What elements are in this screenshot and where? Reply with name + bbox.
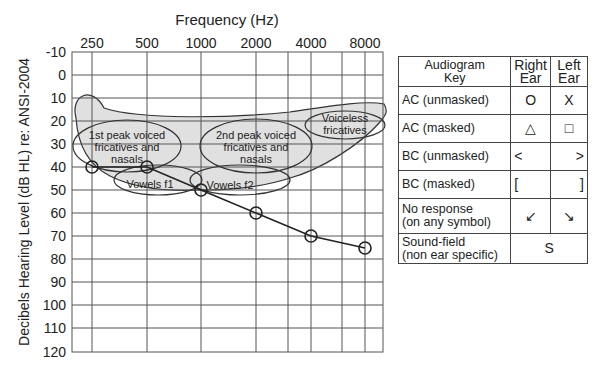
greater-than-symbol-icon: >: [551, 143, 588, 171]
svg-text:Voiceless: Voiceless: [322, 112, 369, 124]
svg-text:0: 0: [58, 67, 66, 83]
y-axis-ticks: -10 0 10 20 30 40 50 60 70 80 90 100 110…: [43, 44, 67, 360]
circle-symbol-icon: O: [511, 87, 551, 115]
svg-text:2000: 2000: [240, 35, 271, 51]
key-row-label: Sound-field(non ear specific): [399, 234, 511, 264]
svg-text:-10: -10: [46, 44, 66, 60]
svg-text:80: 80: [50, 251, 66, 267]
svg-text:250: 250: [80, 35, 104, 51]
key-row-label: AC (masked): [399, 115, 511, 143]
x-axis-ticks: 250 500 1000 2000 4000 8000: [80, 35, 380, 51]
left-bracket-symbol-icon: [: [511, 171, 551, 199]
svg-text:70: 70: [50, 228, 66, 244]
svg-text:500: 500: [135, 35, 159, 51]
svg-text:90: 90: [50, 274, 66, 290]
svg-text:Vowels f2: Vowels f2: [206, 179, 253, 191]
less-than-symbol-icon: <: [511, 143, 551, 171]
svg-text:2nd peak voiced: 2nd peak voiced: [216, 129, 296, 141]
audiogram-key-table: AudiogramKey RightEar LeftEar AC (unmask…: [398, 56, 588, 264]
key-row-label: AC (unmasked): [399, 87, 511, 115]
key-row-label: No response(on any symbol): [399, 199, 511, 234]
svg-text:nasals: nasals: [111, 153, 143, 165]
svg-text:20: 20: [50, 113, 66, 129]
right-ear-header: RightEar: [511, 57, 551, 87]
svg-text:4000: 4000: [295, 35, 326, 51]
svg-text:1000: 1000: [185, 35, 216, 51]
svg-text:110: 110: [44, 320, 67, 336]
key-row-label: BC (unmasked): [399, 143, 511, 171]
y-axis-label: Decibels Hearing Level (dB HL) re: ANSI-…: [16, 58, 32, 346]
svg-text:10: 10: [50, 90, 66, 106]
svg-text:Vowels f1: Vowels f1: [126, 178, 173, 190]
svg-text:120: 120: [43, 344, 67, 360]
svg-text:1st peak voiced: 1st peak voiced: [89, 129, 165, 141]
svg-text:60: 60: [50, 205, 66, 221]
left-ear-header: LeftEar: [551, 57, 588, 87]
key-title: AudiogramKey: [399, 57, 511, 87]
x-symbol-icon: X: [551, 87, 588, 115]
svg-text:fricatives: fricatives: [323, 124, 367, 136]
arrow-down-right-icon: ↘: [551, 199, 588, 234]
svg-text:fricatives and: fricatives and: [95, 141, 160, 153]
chart-title: Frequency (Hz): [175, 11, 278, 28]
svg-text:8000: 8000: [349, 35, 380, 51]
triangle-symbol-icon: △: [511, 115, 551, 143]
audiogram-chart: Frequency (Hz) 250 500 1000 2000 4000 80…: [0, 0, 396, 374]
sound-field-symbol: S: [511, 234, 588, 264]
grid: [72, 52, 383, 352]
svg-text:fricatives and: fricatives and: [224, 141, 289, 153]
arrow-down-left-icon: ↙: [511, 199, 551, 234]
svg-text:100: 100: [43, 297, 67, 313]
svg-text:nasals: nasals: [240, 153, 272, 165]
svg-text:30: 30: [50, 136, 66, 152]
key-row-label: BC (masked): [399, 171, 511, 199]
right-bracket-symbol-icon: ]: [551, 171, 588, 199]
square-symbol-icon: □: [551, 115, 588, 143]
svg-text:50: 50: [50, 182, 66, 198]
svg-text:40: 40: [50, 159, 66, 175]
